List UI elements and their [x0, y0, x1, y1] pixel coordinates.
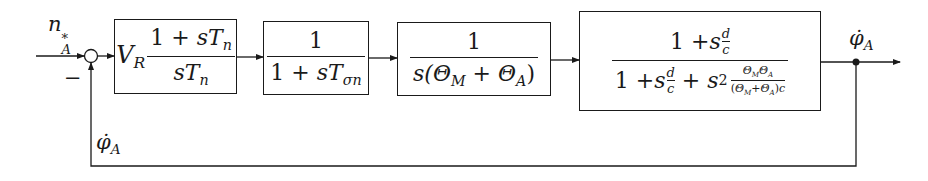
denominator: 1 + sTσn [267, 60, 364, 88]
fraction: 1 s(ΘM + ΘA) [410, 29, 538, 89]
block-mechanics: 1 + s dc 1 + s dc + s2 ΘMΘA (ΘM+ΘA)c [579, 11, 821, 111]
denominator: s(ΘM + ΘA) [410, 61, 538, 89]
branch-point [853, 59, 860, 66]
gain-vr: VR [116, 41, 145, 72]
denominator: 1 + s dc + s2 ΘMΘA (ΘM+ΘA)c [612, 64, 788, 96]
input-label: n*A [48, 12, 71, 56]
block-integrator: 1 s(ΘM + ΘA) [397, 22, 551, 96]
fraction: 1 + s dc 1 + s dc + s2 ΘMΘA (ΘM+ΘA)c [612, 26, 788, 96]
block-controller: VR 1 + sTn sTn [114, 19, 237, 94]
fraction: 1 1 + sTσn [267, 28, 364, 88]
numerator: 1 + s dc [667, 26, 733, 57]
block-lag: 1 1 + sTσn [263, 21, 369, 95]
feedback-sign: − [64, 66, 82, 90]
fraction: 1 + sTn sTn [147, 25, 235, 88]
numerator: 1 [306, 28, 326, 53]
summing-junction [85, 50, 98, 63]
feedback-label: φ̇A [96, 130, 121, 157]
output-label: φ̇A [849, 26, 874, 53]
numerator: 1 + sTn [147, 25, 235, 53]
numerator: 1 [464, 29, 484, 54]
denominator: sTn [170, 60, 211, 88]
